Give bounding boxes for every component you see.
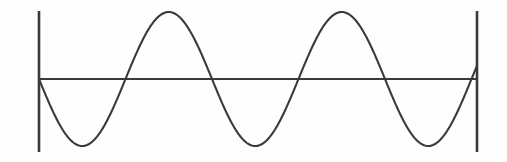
figure-background	[0, 0, 507, 162]
sine-wave-diagram	[0, 0, 507, 162]
figure-root	[0, 0, 507, 162]
